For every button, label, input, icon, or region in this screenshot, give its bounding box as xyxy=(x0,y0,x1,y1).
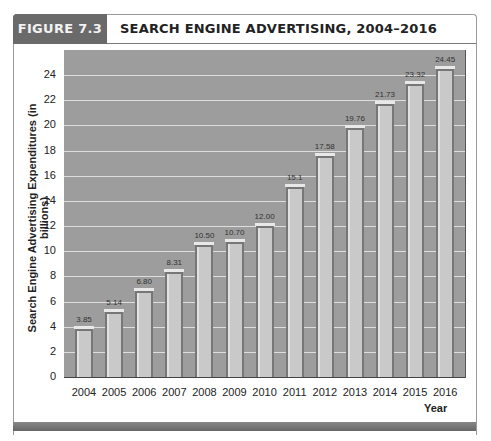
bar-value-label: 8.31 xyxy=(156,258,192,267)
y-tick-label: 0 xyxy=(34,370,56,382)
bar-cap xyxy=(285,184,305,187)
gridline xyxy=(64,201,465,202)
bar-cap xyxy=(405,81,425,84)
bar-value-label: 24.45 xyxy=(427,55,463,64)
y-tick-label: 24 xyxy=(34,68,56,80)
bar-cap xyxy=(435,66,455,69)
figure-label: FIGURE 7.3 xyxy=(13,14,107,44)
bar-2004 xyxy=(75,329,93,377)
bar-2008 xyxy=(195,245,213,377)
bar-value-label: 19.76 xyxy=(337,114,373,123)
bar-value-label: 21.73 xyxy=(367,90,403,99)
x-axis-label: Year xyxy=(424,402,447,414)
bar-2006 xyxy=(135,291,153,377)
bar-cap xyxy=(104,309,124,312)
bar-2011 xyxy=(286,187,304,377)
bar-2014 xyxy=(376,104,394,377)
bar-cap xyxy=(345,125,365,128)
bar-2016 xyxy=(436,69,454,377)
bar-cap xyxy=(315,153,335,156)
gridline xyxy=(64,176,465,177)
gridline xyxy=(64,100,465,101)
bar-value-label: 10.70 xyxy=(217,228,253,237)
bar-2015 xyxy=(406,84,424,377)
bar-cap xyxy=(194,242,214,245)
bar-cap xyxy=(134,288,154,291)
bar-value-label: 5.14 xyxy=(96,298,132,307)
gridline xyxy=(64,151,465,152)
bar-2010 xyxy=(256,226,274,377)
bar-cap xyxy=(225,239,245,242)
bar-2007 xyxy=(165,272,183,377)
bar-cap xyxy=(375,101,395,104)
bar-cap xyxy=(255,223,275,226)
bar-value-label: 12.00 xyxy=(247,212,283,221)
bar-value-label: 17.58 xyxy=(307,142,343,151)
bar-value-label: 3.85 xyxy=(66,315,102,324)
y-axis-label: Search Engine Advertising Expenditures (… xyxy=(26,98,50,338)
gridline xyxy=(64,125,465,126)
bar-2012 xyxy=(316,156,334,377)
figure-title: SEARCH ENGINE ADVERTISING, 2004–2016 xyxy=(120,14,437,44)
footer-band xyxy=(13,422,476,431)
x-tick-label: 2016 xyxy=(427,386,463,398)
bar-2005 xyxy=(105,312,123,377)
bar-cap xyxy=(74,326,94,329)
bar-2009 xyxy=(226,242,244,377)
y-tick-label: 2 xyxy=(34,345,56,357)
bar-2013 xyxy=(346,128,364,377)
bar-cap xyxy=(164,269,184,272)
bar-value-label: 6.80 xyxy=(126,277,162,286)
bar-value-label: 23.32 xyxy=(397,70,433,79)
bar-value-label: 15.1 xyxy=(277,173,313,182)
